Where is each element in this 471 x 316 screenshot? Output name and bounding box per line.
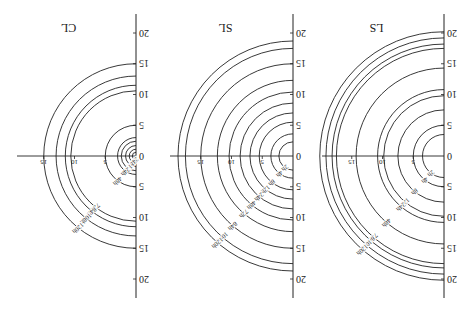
vertical-tick-label: 10 <box>296 89 306 100</box>
panel-title: LS <box>369 21 383 35</box>
horizontal-tick-label: 15 <box>348 158 356 166</box>
contour-figure: 20151050510152051015LS2h4h8h12h24h48h72h… <box>0 0 471 316</box>
panel-cl: 20151050510152051015CL2h4h8h12h24h48h72h… <box>17 14 149 298</box>
contour-label: 72h <box>238 208 250 220</box>
vertical-tick-label: 15 <box>296 243 306 254</box>
vertical-tick-label: 20 <box>296 28 306 39</box>
vertical-tick-label: 15 <box>447 58 457 69</box>
vertical-tick-label: 15 <box>139 243 149 254</box>
vertical-tick-label: 5 <box>447 120 452 131</box>
vertical-tick-label: 20 <box>139 274 149 285</box>
contour-chart-svg: 20151050510152051015LS2h4h8h12h24h48h72h… <box>0 0 471 316</box>
vertical-tick-label: 20 <box>447 274 457 285</box>
contour-label: 84h <box>226 221 238 233</box>
vertical-tick-label: 10 <box>447 212 457 223</box>
vertical-tick-label: 0 <box>296 151 301 162</box>
vertical-tick-label: 10 <box>296 212 306 223</box>
vertical-tick-label: 20 <box>139 28 149 39</box>
horizontal-tick-label: 10 <box>228 158 236 166</box>
contour-label: 4h <box>275 170 285 180</box>
vertical-tick-label: 5 <box>296 181 301 192</box>
vertical-tick-label: 10 <box>139 89 149 100</box>
vertical-tick-label: 15 <box>139 58 149 69</box>
panel-sl: 20151050510152051015SL2h4h8h12h24h48h72h… <box>170 14 306 298</box>
contour-label: 24h <box>395 201 407 213</box>
vertical-tick-label: 20 <box>447 28 457 39</box>
vertical-tick-label: 10 <box>447 89 457 100</box>
vertical-tick-label: 15 <box>296 58 306 69</box>
vertical-tick-label: 5 <box>447 181 452 192</box>
vertical-tick-label: 5 <box>139 120 144 131</box>
vertical-tick-label: 5 <box>296 120 301 131</box>
contour-label: 48h <box>380 217 392 229</box>
panel-title: CL <box>61 21 76 35</box>
vertical-tick-label: 0 <box>447 151 452 162</box>
contour-label: 4h <box>420 176 430 186</box>
panel-ls: 20151050510152051015LS2h4h8h12h24h48h72h… <box>320 14 457 298</box>
vertical-tick-label: 15 <box>447 243 457 254</box>
horizontal-tick-label: 10 <box>379 158 387 166</box>
vertical-tick-label: 20 <box>296 274 306 285</box>
panel-title: SL <box>218 21 232 35</box>
vertical-tick-label: 10 <box>139 212 149 223</box>
contour-label: 48h <box>111 176 123 188</box>
vertical-tick-label: 5 <box>139 181 144 192</box>
